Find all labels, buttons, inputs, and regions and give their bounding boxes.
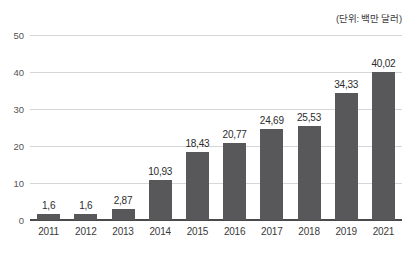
- bar-value-label: 1,6: [42, 200, 55, 211]
- bar: [335, 93, 358, 220]
- x-axis-tick-label: 2019: [328, 226, 365, 237]
- bar-value-label: 40,02: [371, 58, 395, 69]
- y-axis-tick-label: 10: [13, 178, 24, 189]
- bar: [186, 152, 209, 220]
- bar-chart: (단위: 백만 달러) 01020304050 1,61,62,8710,931…: [0, 0, 416, 253]
- x-axis-tick-label: 2015: [179, 226, 216, 237]
- x-axis-tick-label: 2013: [104, 226, 141, 237]
- x-axis-tick-label: 2012: [67, 226, 104, 237]
- x-axis-labels: 2011201220132014201520162017201820192021: [30, 226, 402, 237]
- y-axis-tick-label: 0: [19, 215, 24, 226]
- bar: [298, 126, 321, 220]
- bar-value-label: 1,6: [79, 200, 92, 211]
- bar-slot: 40,02: [365, 35, 402, 220]
- x-axis-tick-label: 2014: [142, 226, 179, 237]
- bar: [223, 143, 246, 220]
- bar-value-label: 24,69: [260, 115, 284, 126]
- y-axis-tick-label: 50: [13, 30, 24, 41]
- bar: [260, 129, 283, 220]
- bar-value-label: 25,53: [297, 112, 321, 123]
- bar: [112, 209, 135, 220]
- bar: [149, 180, 172, 220]
- bar: [74, 214, 97, 220]
- x-axis-tick-label: 2017: [253, 226, 290, 237]
- bar-slot: 20,77: [216, 35, 253, 220]
- unit-annotation: (단위: 백만 달러): [336, 11, 402, 25]
- bar-series: 1,61,62,8710,9318,4320,7724,6925,5334,33…: [30, 35, 402, 220]
- bar-value-label: 34,33: [334, 79, 358, 90]
- y-axis-tick-label: 20: [13, 141, 24, 152]
- bar-slot: 25,53: [290, 35, 327, 220]
- bar-slot: 1,6: [30, 35, 67, 220]
- bar-slot: 18,43: [179, 35, 216, 220]
- bar-slot: 10,93: [142, 35, 179, 220]
- bar-slot: 1,6: [67, 35, 104, 220]
- bar-value-label: 10,93: [148, 166, 172, 177]
- y-axis-tick-label: 40: [13, 67, 24, 78]
- x-axis-tick-label: 2011: [30, 226, 67, 237]
- y-axis-tick-label: 30: [13, 104, 24, 115]
- bar-value-label: 20,77: [223, 129, 247, 140]
- bar-value-label: 2,87: [114, 195, 133, 206]
- x-axis-tick-label: 2018: [290, 226, 327, 237]
- bar-slot: 24,69: [253, 35, 290, 220]
- x-axis-tick-label: 2021: [365, 226, 402, 237]
- bar-value-label: 18,43: [185, 138, 209, 149]
- x-axis-tick-label: 2016: [216, 226, 253, 237]
- bar: [372, 72, 395, 220]
- bar: [37, 214, 60, 220]
- bar-slot: 34,33: [328, 35, 365, 220]
- plot-area: 01020304050 1,61,62,8710,9318,4320,7724,…: [30, 35, 402, 220]
- bar-slot: 2,87: [104, 35, 141, 220]
